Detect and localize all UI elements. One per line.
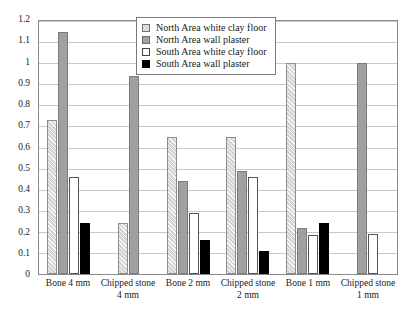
bar [58, 32, 68, 274]
bar [69, 177, 79, 274]
bar [308, 235, 318, 274]
y-tick-label: 0.5 [18, 164, 30, 174]
bar [200, 240, 210, 274]
y-tick-label: 0.8 [18, 100, 30, 110]
bar [237, 171, 247, 274]
bar [259, 251, 269, 274]
bar [178, 181, 188, 274]
x-tick-label: Chipped stone 2 mm [218, 278, 278, 302]
x-tick-label: Bone 2 mm [158, 278, 218, 302]
bar [248, 177, 258, 274]
y-tick-label: 1 [25, 58, 30, 68]
legend-swatch-icon [142, 60, 150, 68]
y-tick-label: 0.6 [18, 143, 30, 153]
bar [286, 63, 296, 274]
bar-group [337, 21, 397, 274]
y-tick-label: 0.7 [18, 122, 30, 132]
x-tick-label: Bone 4 mm [38, 278, 98, 302]
bar [357, 63, 367, 274]
bar [129, 76, 139, 274]
bar [319, 223, 329, 274]
x-tick-label: Chipped stone 4 mm [98, 278, 158, 302]
legend-label: North Area wall plaster [156, 35, 250, 45]
bar [189, 213, 199, 274]
y-tick-label: 1.1 [18, 37, 30, 47]
y-tick-label: 0.3 [18, 207, 30, 217]
bar [80, 223, 90, 274]
legend-swatch-icon [142, 24, 150, 32]
y-tick-label: 0.4 [18, 185, 30, 195]
legend-swatch-icon [142, 48, 150, 56]
legend: North Area white clay floorNorth Area wa… [136, 17, 276, 75]
x-tick-label: Chipped stone 1 mm [338, 278, 398, 302]
legend-label: North Area white clay floor [156, 23, 267, 33]
bar-chart: 1.21.110.90.80.70.60.50.40.30.20.10 Bone… [0, 0, 415, 317]
y-tick-label: 0 [25, 270, 30, 280]
legend-swatch-icon [142, 36, 150, 44]
y-tick-label: 0.9 [18, 79, 30, 89]
bar-group [39, 21, 99, 274]
legend-item: South Area wall plaster [142, 58, 267, 70]
legend-item: South Area white clay floor [142, 46, 267, 58]
x-tick-label: Bone 1 mm [278, 278, 338, 302]
legend-item: North Area wall plaster [142, 34, 267, 46]
x-axis: Bone 4 mmChipped stone 4 mmBone 2 mmChip… [38, 278, 398, 302]
bar-group [278, 21, 338, 274]
bar [47, 120, 57, 274]
bar [226, 137, 236, 274]
legend-label: South Area white clay floor [156, 47, 267, 57]
legend-label: South Area wall plaster [156, 59, 250, 69]
bar [297, 228, 307, 274]
legend-item: North Area white clay floor [142, 22, 267, 34]
bar [368, 234, 378, 274]
y-tick-label: 0.1 [18, 249, 30, 259]
y-axis: 1.21.110.90.80.70.60.50.40.30.20.10 [0, 20, 34, 275]
y-tick-label: 0.2 [18, 228, 30, 238]
y-tick-label: 1.2 [18, 15, 30, 25]
bar [167, 137, 177, 274]
gridline [39, 274, 397, 275]
bar [118, 223, 128, 274]
